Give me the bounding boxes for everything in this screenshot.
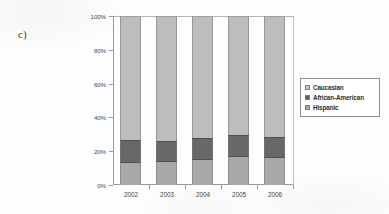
x-axis-tick-mark bbox=[185, 185, 186, 189]
y-axis-tick-label: 40% bbox=[78, 114, 106, 121]
chart-legend: CaucasianAfrican-AmericanHispanic bbox=[300, 78, 380, 117]
stacked-bar bbox=[228, 16, 249, 185]
x-axis-tick-mark bbox=[149, 185, 150, 189]
y-axis-tick-mark bbox=[109, 151, 113, 152]
legend-item-label: Caucasian bbox=[313, 84, 344, 91]
y-axis-tick-label: 0% bbox=[78, 182, 106, 189]
legend-swatch-icon bbox=[305, 105, 310, 110]
legend-item: African-American bbox=[305, 93, 376, 102]
x-axis-tick-mark bbox=[293, 185, 294, 189]
legend-item: Caucasian bbox=[305, 83, 376, 92]
legend-item-label: Hispanic bbox=[313, 104, 338, 111]
bar-segment-hispanic bbox=[120, 163, 141, 185]
x-axis-tick-label: 2006 bbox=[255, 191, 295, 198]
bar-segment-hispanic bbox=[228, 157, 249, 185]
y-axis-tick-label: 80% bbox=[78, 46, 106, 53]
y-axis-tick-label: 100% bbox=[78, 13, 106, 20]
stacked-bar bbox=[264, 16, 285, 185]
bar-segment-hispanic bbox=[156, 162, 177, 185]
y-axis-tick-label: 20% bbox=[78, 148, 106, 155]
y-axis-tick-label: 60% bbox=[78, 80, 106, 87]
bar-segment-caucasian bbox=[192, 16, 213, 138]
x-axis-tick-mark bbox=[221, 185, 222, 189]
y-axis-tick-mark bbox=[109, 185, 113, 186]
stacked-bar bbox=[192, 16, 213, 185]
plot-right-border bbox=[293, 16, 294, 186]
bar-segment-caucasian bbox=[156, 16, 177, 141]
legend-swatch-icon bbox=[305, 85, 310, 90]
y-axis-tick-mark bbox=[109, 117, 113, 118]
stacked-bar bbox=[156, 16, 177, 185]
x-axis-tick-label: 2005 bbox=[219, 191, 259, 198]
x-axis-tick-label: 2004 bbox=[183, 191, 223, 198]
bar-segment-african-american bbox=[156, 141, 177, 162]
legend-item-label: African-American bbox=[313, 94, 364, 101]
bar-segment-african-american bbox=[192, 138, 213, 161]
bar-segment-caucasian bbox=[264, 16, 285, 137]
bar-segment-caucasian bbox=[228, 16, 249, 135]
y-axis-tick-mark bbox=[109, 16, 113, 17]
y-axis-tick-mark bbox=[109, 50, 113, 51]
bar-segment-african-american bbox=[264, 137, 285, 158]
figure-panel: c) 0%20%40%60%80%100% 200220032004200520… bbox=[0, 0, 389, 214]
panel-label: c) bbox=[18, 28, 27, 40]
y-axis-tick-mark bbox=[109, 84, 113, 85]
bar-segment-african-american bbox=[228, 135, 249, 157]
legend-item: Hispanic bbox=[305, 103, 376, 112]
bar-segment-african-american bbox=[120, 140, 141, 163]
legend-swatch-icon bbox=[305, 95, 310, 100]
x-axis-tick-label: 2002 bbox=[111, 191, 151, 198]
stacked-bar bbox=[120, 16, 141, 185]
bar-segment-hispanic bbox=[192, 160, 213, 185]
bar-segment-caucasian bbox=[120, 16, 141, 140]
x-axis-tick-mark bbox=[257, 185, 258, 189]
bar-segment-hispanic bbox=[264, 158, 285, 185]
x-axis-tick-label: 2003 bbox=[147, 191, 187, 198]
